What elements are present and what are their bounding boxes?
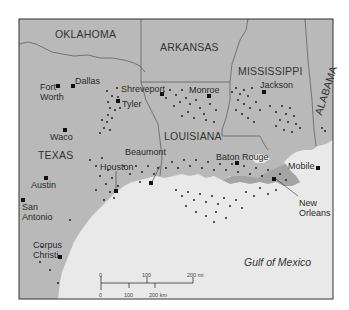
city-label-austin: Austin bbox=[31, 180, 56, 190]
city-label-houston: Houston bbox=[100, 162, 134, 172]
city-label-line: Antonio bbox=[22, 212, 53, 222]
city-label-line: Christi bbox=[33, 250, 62, 260]
city-marker-new-orleans bbox=[272, 177, 276, 181]
city-label-tyler: Tyler bbox=[122, 99, 142, 109]
city-marker-jackson bbox=[262, 90, 266, 94]
city-marker-houston bbox=[114, 189, 118, 193]
city-label-monroe: Monroe bbox=[189, 85, 220, 95]
city-label-baton-rouge: Baton Rouge bbox=[216, 152, 269, 162]
city-label-beaumont: Beaumont bbox=[125, 147, 166, 157]
scale-km-0: 0 bbox=[99, 290, 102, 300]
city-label-shreveport: Shreveport bbox=[121, 84, 165, 94]
state-label-texas: TEXAS bbox=[38, 150, 73, 160]
scale-km-200: 200 km bbox=[149, 290, 167, 300]
city-label-mobile: Mobile bbox=[288, 161, 315, 171]
scale-km-100: 100 bbox=[124, 290, 133, 300]
city-label-line: New bbox=[299, 198, 331, 208]
state-label-mississippi: MISSISSIPPI bbox=[238, 66, 303, 76]
water-label-gulf-of-mexico: Gulf of Mexico bbox=[244, 257, 311, 267]
state-label-arkansas: ARKANSAS bbox=[160, 42, 219, 52]
city-label-jackson: Jackson bbox=[260, 80, 293, 90]
city-label-line: Fort bbox=[40, 82, 64, 92]
city-label-fort-worth: Fort Worth bbox=[40, 82, 64, 102]
city-label-dallas: Dallas bbox=[75, 76, 100, 86]
state-label-oklahoma: OKLAHOMA bbox=[55, 29, 116, 39]
city-marker-tyler bbox=[116, 99, 120, 103]
city-label-line: Orleans bbox=[299, 208, 331, 218]
state-label-louisiana: LOUISIANA bbox=[164, 131, 222, 141]
city-label-line: San bbox=[22, 202, 53, 212]
city-label-waco: Waco bbox=[50, 132, 73, 142]
city-label-line: Worth bbox=[40, 92, 64, 102]
scale-mi-0: 0 bbox=[99, 270, 102, 280]
scale-mi-100: 100 bbox=[142, 270, 151, 280]
scale-mi-200: 200 mi bbox=[187, 270, 204, 280]
city-label-line: Corpus bbox=[33, 240, 62, 250]
city-label-corpus-christi: Corpus Christi bbox=[33, 240, 62, 260]
city-label-new-orleans: New Orleans bbox=[299, 198, 331, 218]
city-label-san-antonio: San Antonio bbox=[22, 202, 53, 222]
city-marker-mobile bbox=[316, 166, 320, 170]
